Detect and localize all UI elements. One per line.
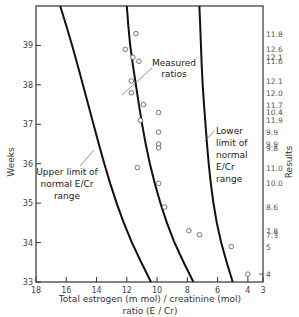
result-label: 11.6 [266, 57, 283, 66]
x-tick-label: 18 [31, 286, 41, 295]
data-point [129, 79, 134, 84]
annotation-upper-limit-1: Upper limit of [36, 167, 98, 177]
x-tick-label: 4 [245, 286, 250, 295]
annotation-upper-limit-2: normal E/Cr [40, 179, 93, 189]
y-tick-label: 36 [23, 160, 33, 169]
data-point [137, 59, 142, 64]
result-label: 8.6 [266, 203, 278, 212]
x-axis-title-line1: Total estrogen (m mol) / creatinine (mol… [58, 294, 241, 304]
y-axis-title: Weeks [6, 147, 16, 177]
data-point [187, 228, 192, 233]
annotation-lower-limit-5: range [216, 174, 243, 184]
right-axis-title: Results [284, 145, 294, 178]
data-point [162, 205, 167, 210]
y-tick-label: 39 [23, 41, 33, 50]
data-point [129, 90, 134, 95]
data-point [138, 118, 143, 123]
annotation-lower-limit-2: limit of [216, 138, 248, 148]
annotation-leader [80, 150, 94, 166]
result-label: 12.1 [266, 77, 283, 86]
annotation-measured-ratios-2: ratios [161, 69, 187, 79]
data-point [156, 110, 161, 115]
data-point [135, 165, 140, 170]
curve-0 [60, 6, 151, 282]
y-tick-label: 38 [23, 81, 33, 90]
annotation-lower-limit-1: Lower [216, 126, 243, 136]
x-axis-ticks: 18161412108643 [31, 277, 266, 295]
result-label: 5 [266, 243, 271, 252]
chart: 18161412108643 33343536373839 11.812.612… [0, 0, 299, 317]
result-label: 12.0 [266, 89, 283, 98]
y-tick-label: 34 [23, 239, 33, 248]
annotation-lower-limit-3: normal [216, 150, 248, 160]
annotation-lower-limit-4: E/Cr [216, 162, 235, 172]
y-axis-ticks: 33343536373839 [23, 41, 41, 287]
data-point [123, 47, 128, 52]
result-label: 10.0 [266, 179, 283, 188]
data-point [156, 146, 161, 151]
data-point [141, 102, 146, 107]
y-tick-label: 37 [23, 120, 33, 129]
result-label: 9.8 [266, 144, 278, 153]
x-axis-title-line2: ratio (E / Cr) [122, 306, 177, 316]
result-label: 9.9 [266, 128, 278, 137]
data-point [131, 55, 136, 60]
data-point [229, 244, 234, 249]
x-tick-label: 3 [260, 286, 265, 295]
y-tick-label: 33 [23, 278, 33, 287]
data-point [156, 130, 161, 135]
data-point [197, 232, 202, 237]
data-point [156, 181, 161, 186]
limit-curves [60, 6, 233, 282]
data-point [246, 272, 251, 277]
result-label: 11.0 [266, 164, 283, 173]
result-label: 11.9 [266, 116, 283, 125]
annotation-upper-limit-3: range [54, 191, 81, 201]
result-label: 11.8 [266, 30, 283, 39]
data-point [134, 31, 139, 36]
y-tick-label: 35 [23, 199, 33, 208]
annotation-measured-ratios-1: Measured [152, 58, 196, 68]
result-label: 4 [266, 270, 271, 279]
result-label: 7.3 [266, 231, 278, 240]
